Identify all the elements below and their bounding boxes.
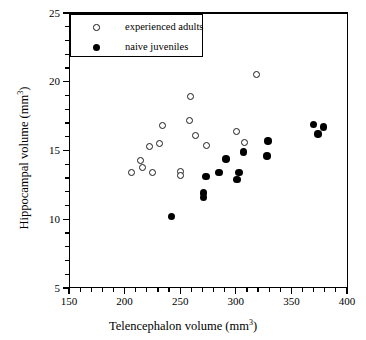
y-axis-label-tail: )	[17, 87, 31, 91]
data-point-naive-juveniles	[202, 173, 210, 181]
data-point-naive-juveniles	[264, 137, 272, 145]
x-tick-minor	[302, 288, 303, 292]
x-tick-minor	[246, 288, 247, 292]
x-axis-label-tail: )	[253, 319, 257, 333]
y-tick-minor	[65, 136, 69, 137]
x-tick-minor	[157, 288, 158, 292]
x-tick-minor	[135, 288, 136, 292]
legend-box: experienced adults naive juveniles	[70, 14, 203, 57]
x-tick-minor	[168, 288, 169, 292]
legend-label-experienced-adults: experienced adults	[125, 20, 203, 31]
x-tick-minor	[280, 288, 281, 292]
y-tick-minor	[65, 177, 69, 178]
y-tick-minor	[65, 274, 69, 275]
legend-label-naive-juveniles: naive juveniles	[125, 40, 188, 51]
scatter-plot-figure: 510152025 150200250300350400 Hippocampal…	[0, 0, 366, 340]
x-tick-label: 250	[172, 296, 189, 307]
y-tick-minor	[65, 109, 69, 110]
y-tick-minor	[65, 122, 69, 123]
y-tick-label: 20	[49, 76, 60, 87]
x-tick-minor	[80, 288, 81, 292]
y-tick-minor	[65, 164, 69, 165]
data-point-experienced-adults	[156, 140, 163, 147]
y-tick-minor	[65, 54, 69, 55]
y-tick-minor	[65, 232, 69, 233]
x-tick-minor	[146, 288, 147, 292]
x-tick-minor	[213, 288, 214, 292]
filled-circle-icon	[93, 37, 100, 55]
y-axis-label: Hippocampal volume (mm3)	[16, 48, 32, 268]
data-point-naive-juveniles	[235, 169, 243, 177]
x-tick-minor	[313, 288, 314, 292]
data-point-experienced-adults	[128, 169, 135, 176]
x-axis-label-text: Telencephalon volume (mm	[109, 319, 249, 333]
data-point-experienced-adults	[203, 142, 210, 149]
x-tick-minor	[202, 288, 203, 292]
y-tick-minor	[65, 205, 69, 206]
data-point-experienced-adults	[137, 157, 144, 164]
x-tick-minor	[269, 288, 270, 292]
x-tick-major	[180, 288, 181, 294]
y-axis-label-superscript: 3	[16, 91, 25, 95]
x-tick-major	[291, 288, 292, 294]
data-point-naive-juveniles	[233, 176, 241, 184]
clipped-caption-text	[0, 0, 366, 7]
x-tick-minor	[191, 288, 192, 292]
y-tick-minor	[65, 26, 69, 27]
x-tick-major	[124, 288, 125, 294]
data-point-experienced-adults	[149, 169, 156, 176]
x-axis-label: Telencephalon volume (mm3)	[0, 318, 366, 334]
x-tick-label: 300	[228, 296, 245, 307]
x-tick-minor	[224, 288, 225, 292]
x-tick-minor	[91, 288, 92, 292]
y-tick-label: 10	[49, 214, 60, 225]
legend-entry-experienced-adults: experienced adults	[71, 15, 204, 36]
y-tick-minor	[65, 246, 69, 247]
y-tick-major	[63, 150, 69, 151]
open-circle-icon	[93, 17, 100, 35]
y-tick-minor	[65, 95, 69, 96]
data-point-naive-juveniles	[222, 155, 230, 163]
y-tick-minor	[65, 260, 69, 261]
data-point-experienced-adults	[139, 164, 146, 171]
x-tick-minor	[113, 288, 114, 292]
legend-entry-naive-juveniles: naive juveniles	[71, 35, 204, 56]
y-tick-major	[63, 12, 69, 13]
x-tick-major	[68, 288, 69, 294]
y-axis-label-text: Hippocampal volume (mm	[17, 95, 31, 230]
x-tick-label: 400	[339, 296, 356, 307]
data-point-experienced-adults	[241, 139, 248, 146]
x-tick-minor	[257, 288, 258, 292]
x-tick-label: 150	[61, 296, 78, 307]
x-tick-label: 350	[283, 296, 300, 307]
data-point-experienced-adults	[177, 172, 184, 179]
y-tick-label: 5	[55, 283, 61, 294]
y-tick-minor	[65, 40, 69, 41]
y-tick-minor	[65, 67, 69, 68]
y-tick-label: 15	[49, 145, 60, 156]
x-tick-minor	[335, 288, 336, 292]
x-tick-major	[235, 288, 236, 294]
data-point-experienced-adults	[146, 143, 153, 150]
y-tick-major	[63, 81, 69, 82]
data-point-naive-juveniles	[263, 152, 271, 160]
data-point-naive-juveniles	[314, 130, 322, 138]
y-tick-major	[63, 219, 69, 220]
data-point-naive-juveniles	[240, 148, 248, 156]
data-point-experienced-adults	[186, 117, 193, 124]
y-tick-label: 25	[49, 8, 60, 19]
x-tick-major	[346, 288, 347, 294]
y-tick-minor	[65, 191, 69, 192]
x-tick-minor	[324, 288, 325, 292]
x-tick-label: 200	[116, 296, 133, 307]
data-point-naive-juveniles	[200, 189, 208, 197]
data-point-naive-juveniles	[215, 169, 223, 177]
x-tick-minor	[102, 288, 103, 292]
